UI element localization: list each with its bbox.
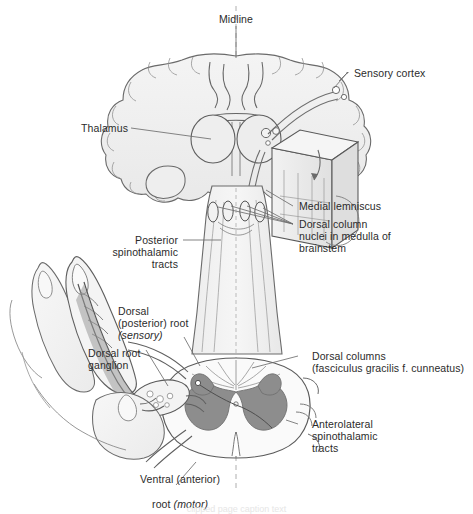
label-midline: Midline (196, 13, 276, 26)
clipped-page-caption: clipped page caption text (0, 504, 473, 514)
label-sensory-cortex: Sensory cortex (354, 67, 425, 80)
label-thalamus: Thalamus (18, 122, 128, 135)
label-medial-lemniscus: Medial lemniscus (299, 200, 381, 213)
